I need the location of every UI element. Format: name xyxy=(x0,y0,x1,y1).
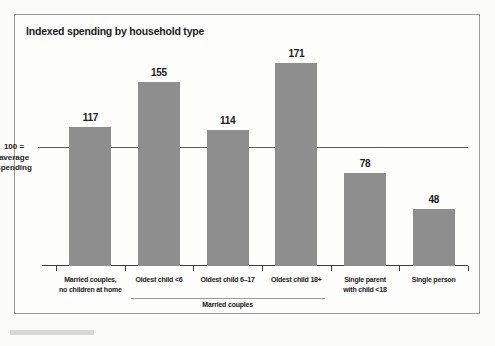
bar xyxy=(344,173,386,266)
bar-value-label: 48 xyxy=(410,194,458,205)
bar-value-label: 117 xyxy=(66,112,114,123)
category-label: Single person xyxy=(394,275,474,285)
reference-line-label: 100 = average spending xyxy=(0,142,38,174)
bar xyxy=(207,130,249,266)
bar-value-label: 78 xyxy=(341,158,389,169)
reference-label-line-1: 100 = xyxy=(0,142,38,153)
bar xyxy=(138,82,180,266)
group-bracket-married-couples xyxy=(131,298,325,299)
x-axis-tick xyxy=(125,266,126,271)
chart-figure: Indexed spending by household type 100 =… xyxy=(0,0,495,346)
plot-area: 100 = average spending 117Married couple… xyxy=(56,40,468,266)
bar-value-label: 114 xyxy=(204,115,252,126)
x-axis-tick xyxy=(331,266,332,271)
x-axis-tick xyxy=(193,266,194,271)
category-label-line-2: with child <18 xyxy=(325,285,405,295)
page-artifact xyxy=(10,330,94,335)
reference-label-line-3: spending xyxy=(0,163,38,174)
x-axis-tick xyxy=(468,266,469,271)
bar-value-label: 171 xyxy=(272,48,320,59)
bar xyxy=(413,209,455,266)
group-label-married-couples: Married couples xyxy=(131,301,325,308)
bar-value-label: 155 xyxy=(135,67,183,78)
category-label-line-2: no children at home xyxy=(50,285,130,295)
x-axis-tick xyxy=(262,266,263,271)
x-axis-tick xyxy=(56,266,57,271)
reference-label-line-2: average xyxy=(0,153,38,164)
x-axis-tick xyxy=(399,266,400,271)
chart-title: Indexed spending by household type xyxy=(26,25,204,37)
bar xyxy=(275,63,317,266)
category-label-line-1: Single person xyxy=(394,275,474,285)
bar xyxy=(69,127,111,266)
